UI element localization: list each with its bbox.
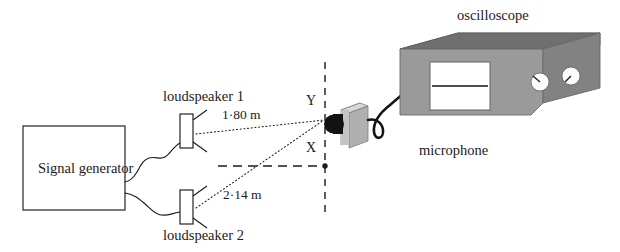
path-speaker1-to-Y: [196, 120, 324, 134]
point-x-label: X: [306, 141, 316, 155]
signal-generator-label: Signal generator: [38, 161, 133, 176]
microphone-label: microphone: [419, 143, 488, 158]
oscilloscope-knob-1: [531, 73, 549, 91]
oscilloscope-knob-2: [562, 67, 580, 85]
point-y-label: Y: [306, 94, 316, 108]
loudspeaker-2-icon: [180, 186, 207, 228]
distance-speaker1-label: 1·80 m: [222, 108, 261, 122]
oscilloscope-label: oscilloscope: [457, 8, 529, 23]
point-x-marker: [322, 163, 327, 168]
diagram-artwork: [0, 0, 620, 252]
microphone-icon: [324, 103, 368, 148]
loudspeaker-1-label: loudspeaker 1: [163, 89, 244, 104]
loudspeaker-1-icon: [180, 110, 207, 152]
oscilloscope-icon: [400, 33, 600, 115]
loudspeaker-2-label: loudspeaker 2: [163, 228, 244, 243]
physics-diagram-canvas: Signal generator loudspeaker 1 loudspeak…: [0, 0, 620, 252]
distance-speaker2-label: 2·14 m: [223, 188, 262, 202]
wire-to-loudspeaker-2: [125, 193, 180, 215]
